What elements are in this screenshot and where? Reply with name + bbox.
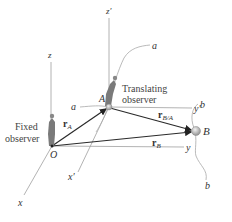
particle-B	[192, 127, 201, 136]
label-b-top: b	[200, 99, 205, 110]
label-b-bottom: b	[205, 180, 210, 191]
relative-motion-diagram: z y x z′ y′ x′ O A B a a b b rA rB rB/A …	[0, 0, 232, 222]
fixed-observer-figure	[48, 114, 55, 146]
fixed-observer-label-line2: observer	[5, 133, 40, 144]
label-z-prime: z′	[105, 6, 113, 16]
label-y: y	[185, 142, 191, 153]
label-A: A	[98, 93, 106, 104]
vector-rA	[52, 109, 106, 146]
label-rBA: rB/A	[158, 109, 174, 122]
label-a-left: a	[71, 101, 76, 112]
label-O: O	[50, 149, 57, 160]
label-a-top: a	[152, 40, 157, 51]
fixed-observer-label-line1: Fixed	[15, 121, 38, 132]
label-x: x	[17, 197, 23, 208]
path-b-curve	[192, 104, 206, 180]
label-B: B	[203, 125, 210, 137]
label-x-prime: x′	[67, 171, 75, 182]
vector-rB	[52, 132, 191, 146]
label-z: z	[47, 50, 52, 60]
origin-O-marker	[51, 145, 54, 148]
label-rA: rA	[63, 118, 72, 131]
fixed-axes	[24, 62, 184, 195]
translating-observer-label-line1: Translating	[122, 83, 167, 94]
label-rB: rB	[152, 137, 161, 150]
vector-rBA	[110, 108, 191, 130]
x-axis	[24, 146, 52, 195]
point-A-marker	[106, 104, 112, 110]
y-axis	[52, 146, 184, 147]
y-prime-axis	[109, 107, 192, 108]
translating-observer-label-line2: observer	[122, 94, 157, 105]
path-a-lower	[96, 107, 108, 132]
